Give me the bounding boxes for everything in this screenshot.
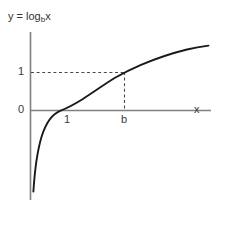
function-title-main: y = log	[8, 10, 41, 22]
y-axis-tick-label-0: 0	[18, 104, 24, 115]
function-title-variable: x	[45, 10, 51, 22]
x-axis-tick-label-1: 1	[64, 114, 70, 125]
function-title-label: y = logbx	[8, 11, 51, 22]
logarithm-graph-figure: y = logbx 1 0 1 b x	[0, 0, 232, 237]
plot-canvas	[0, 0, 232, 237]
function-title-subscript: b	[41, 15, 45, 24]
x-axis-tick-label-b: b	[121, 114, 127, 125]
y-axis-tick-label-1: 1	[18, 66, 24, 77]
x-axis-name-label: x	[194, 104, 200, 115]
